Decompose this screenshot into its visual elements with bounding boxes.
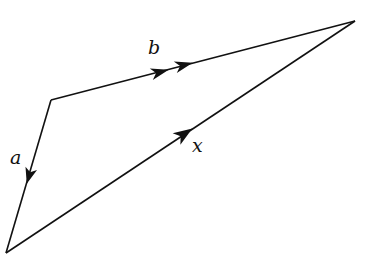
arrowhead-b1-icon (150, 64, 170, 80)
vector-diagram-svg (0, 0, 365, 267)
label-a: a (10, 148, 21, 167)
vector-x-line (6, 21, 355, 253)
label-b: b (148, 38, 160, 57)
vector-diagram: a b x (0, 0, 365, 267)
arrowhead-a-icon (21, 167, 37, 186)
vector-b-line (51, 21, 355, 100)
label-x: x (192, 136, 203, 155)
arrowhead-b2-icon (174, 57, 194, 73)
